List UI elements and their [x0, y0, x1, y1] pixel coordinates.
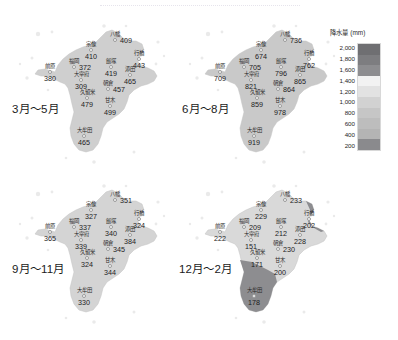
island-speckle: [25, 76, 28, 79]
city-name: 福岡: [69, 219, 79, 224]
island-speckle: [36, 192, 40, 196]
city-name: 前原: [45, 64, 55, 69]
city-name: 大牟田: [77, 288, 92, 293]
city-name: 久留米: [250, 90, 265, 95]
island-speckle: [133, 311, 136, 314]
city-value: 384: [124, 238, 136, 245]
city-name: 大宰府: [244, 232, 259, 237]
island-speckle: [51, 191, 54, 194]
city-value: 228: [294, 238, 306, 245]
city-name: 福岡: [69, 59, 79, 64]
island-speckle: [272, 24, 276, 28]
island-speckle: [156, 40, 159, 43]
map-panel-autumn: 9月～11月八幡351宗像327行橋324飯塚340福岡337添田384前原36…: [8, 172, 178, 332]
city-name: 八幡: [280, 32, 290, 37]
legend-tick-1800: 1,800: [340, 56, 355, 62]
island-speckle: [51, 31, 54, 34]
island-speckle: [221, 191, 224, 194]
island-speckle: [303, 151, 306, 154]
season-label: 3月～5月: [12, 100, 59, 116]
island-speckle: [325, 63, 328, 66]
legend-colorbar: [357, 43, 381, 151]
station-dot-icon: [283, 198, 287, 202]
island-speckle: [156, 200, 159, 203]
station-dot-icon: [106, 247, 110, 251]
prefecture-outline: [205, 30, 327, 152]
island-speckle: [36, 32, 40, 36]
legend-tick-800: 800: [345, 110, 355, 116]
city-name: 飯塚: [106, 59, 116, 64]
station-dot-icon: [113, 38, 117, 42]
city-value: 222: [214, 235, 226, 242]
island-speckle: [195, 236, 198, 239]
island-speckle: [221, 31, 224, 34]
city-name: 添田: [125, 67, 135, 72]
island-speckle: [92, 320, 96, 324]
city-name: 八幡: [110, 192, 120, 197]
city-value: 365: [44, 235, 56, 242]
island-speckle: [235, 157, 238, 160]
city-value: 171: [251, 261, 263, 268]
city-name: 行橋: [134, 211, 144, 216]
city-name: 久留米: [80, 250, 95, 255]
legend-tick-200: 200: [345, 142, 355, 148]
city-name: 久留米: [80, 90, 95, 95]
station-dot-icon: [242, 65, 246, 69]
city-name: 八幡: [110, 32, 120, 37]
island-speckle: [47, 249, 50, 252]
station-dot-icon: [242, 225, 246, 229]
city-name: 朝倉: [103, 241, 113, 246]
city-name: 飯塚: [276, 59, 286, 64]
city-value: 233: [290, 197, 302, 204]
city-value: 200: [274, 269, 286, 276]
city-name: 甘木: [275, 98, 285, 103]
island-speckle: [217, 89, 220, 92]
prefecture-outline: [35, 30, 157, 152]
city-name: 大牟田: [247, 288, 262, 293]
island-speckle: [125, 25, 128, 28]
city-value: 674: [255, 53, 267, 60]
city-value: 736: [290, 37, 302, 44]
island-speckle: [195, 76, 198, 79]
city-value: 865: [294, 78, 306, 85]
island-speckle: [102, 24, 106, 28]
island-speckle: [206, 192, 210, 196]
island-speckle: [333, 215, 335, 217]
city-name: 甘木: [275, 258, 285, 263]
city-value: 465: [124, 78, 136, 85]
city-name: 前原: [215, 64, 225, 69]
station-dot-icon: [276, 247, 280, 251]
island-speckle: [325, 223, 328, 226]
city-name: 宗像: [86, 42, 96, 47]
island-speckle: [262, 320, 266, 324]
city-name: 大牟田: [77, 128, 92, 133]
city-value: 410: [85, 53, 97, 60]
city-name: 宗像: [86, 202, 96, 207]
island-speckle: [206, 32, 210, 36]
season-label: 9月～11月: [12, 260, 65, 276]
island-speckle: [31, 217, 34, 220]
city-value: 499: [104, 109, 116, 116]
city-name: 行橋: [304, 51, 314, 56]
city-name: 福岡: [239, 59, 249, 64]
map-panel-spring: 3月～5月八幡409宗像410行橋443飯塚419福岡372添田465前原380…: [8, 12, 178, 172]
city-name: 行橋: [304, 211, 314, 216]
city-name: 大牟田: [247, 128, 262, 133]
city-name: 福岡: [239, 219, 249, 224]
season-label: 6月～8月: [182, 100, 229, 116]
city-name: 朝倉: [273, 81, 283, 86]
legend: 降水量 (mm) 2,0001,8001,6001,4001,2001,0008…: [330, 28, 392, 151]
city-name: 添田: [125, 227, 135, 232]
island-speckle: [295, 185, 298, 188]
island-speckle: [102, 184, 106, 188]
city-value: 344: [104, 269, 116, 276]
city-value: 327: [85, 213, 97, 220]
station-dot-icon: [276, 87, 280, 91]
legend-tick-labels: 2,0001,8001,6001,4001,2001,0008006004002…: [330, 43, 357, 151]
island-speckle: [303, 311, 306, 314]
city-value: 465: [78, 139, 90, 146]
island-speckle: [19, 223, 21, 225]
island-speckle: [25, 236, 28, 239]
city-name: 宗像: [256, 202, 266, 207]
station-dot-icon: [283, 38, 287, 42]
